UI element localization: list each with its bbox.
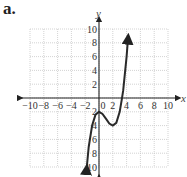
- svg-text:8: 8: [152, 100, 157, 111]
- svg-text:6: 6: [92, 51, 97, 62]
- svg-text:8: 8: [92, 37, 97, 48]
- svg-text:6: 6: [138, 100, 143, 111]
- x-axis-label: x: [180, 92, 186, 104]
- svg-text:10: 10: [87, 162, 97, 173]
- svg-text:10: 10: [87, 24, 97, 35]
- svg-text:4: 4: [92, 65, 97, 76]
- svg-text:10: 10: [163, 100, 173, 111]
- svg-text:0: 0: [101, 100, 106, 111]
- svg-text:−6: −6: [52, 100, 63, 111]
- svg-text:2: 2: [92, 79, 97, 90]
- svg-text:8: 8: [92, 148, 97, 159]
- svg-text:−4: −4: [66, 100, 77, 111]
- svg-text:6: 6: [92, 134, 97, 145]
- svg-text:−10: −10: [22, 100, 38, 111]
- svg-text:4: 4: [124, 100, 129, 111]
- svg-text:2: 2: [110, 100, 115, 111]
- svg-text:−8: −8: [38, 100, 49, 111]
- svg-text:−2: −2: [80, 100, 91, 111]
- y-axis-label: y: [95, 7, 101, 19]
- cubic-graph: −10−8−6−4−20246810108642246810 x y: [0, 0, 187, 177]
